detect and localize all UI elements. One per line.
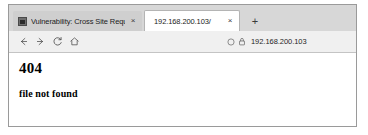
page-favicon-icon	[18, 17, 27, 26]
shield-icon[interactable]	[227, 38, 235, 46]
address-bar[interactable]: 192.168.200.103	[93, 34, 348, 49]
error-code: 404	[19, 61, 346, 76]
tab-title: 192.168.200.103/	[150, 17, 222, 26]
page-content: 404 file not found	[9, 53, 356, 126]
browser-window: Vulnerability: Cross Site Requ × 192.168…	[8, 4, 357, 127]
close-icon[interactable]: ×	[128, 16, 138, 26]
reload-button[interactable]	[49, 33, 66, 50]
close-icon[interactable]: ×	[225, 16, 235, 26]
home-button[interactable]	[66, 33, 83, 50]
forward-button[interactable]	[32, 33, 49, 50]
navigation-toolbar: 192.168.200.103	[9, 31, 356, 53]
url-text: 192.168.200.103	[251, 37, 307, 46]
tab-title: Vulnerability: Cross Site Requ	[31, 17, 125, 26]
new-tab-button[interactable]: +	[247, 12, 263, 30]
tab-strip: Vulnerability: Cross Site Requ × 192.168…	[9, 5, 356, 31]
error-message: file not found	[19, 89, 346, 99]
back-button[interactable]	[15, 33, 32, 50]
tab-192-168-200-103[interactable]: 192.168.200.103/ ×	[144, 10, 240, 31]
lock-icon[interactable]	[238, 37, 246, 46]
tab-vulnerability[interactable]: Vulnerability: Cross Site Requ ×	[13, 11, 142, 31]
